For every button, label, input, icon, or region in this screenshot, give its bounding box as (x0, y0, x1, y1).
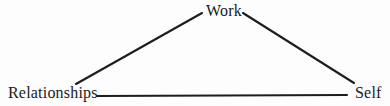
edge-work-self (243, 13, 354, 83)
triangle-diagram: Work Relationships Self (0, 0, 390, 106)
node-label-work: Work (206, 3, 242, 19)
edge-relationships-self (97, 95, 347, 96)
node-label-self: Self (355, 85, 382, 101)
edge-work-relationships (76, 13, 202, 84)
node-label-relationships: Relationships (8, 85, 98, 101)
